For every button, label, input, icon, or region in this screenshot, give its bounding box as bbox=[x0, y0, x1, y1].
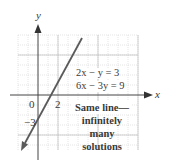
equation-2: 6x − 3y = 9 bbox=[76, 81, 125, 92]
equation-1: 2x − y = 3 bbox=[76, 68, 119, 79]
note-line-2: infinitely bbox=[72, 114, 132, 127]
same-line-note: Same line— infinitely many solutions bbox=[72, 101, 132, 153]
x-axis-arrow-icon bbox=[144, 92, 153, 99]
note-line-3: many bbox=[72, 127, 132, 140]
y-axis-arrow-icon bbox=[35, 24, 42, 33]
note-line-1: Same line— bbox=[72, 101, 132, 114]
note-line-4: solutions bbox=[72, 140, 132, 153]
y-axis bbox=[35, 24, 42, 160]
x-axis-label: x bbox=[155, 89, 160, 100]
y-axis-label: y bbox=[36, 10, 41, 21]
x-tick-2: 2 bbox=[55, 99, 61, 110]
y-tick-neg3: −3 bbox=[24, 117, 36, 128]
origin-label: 0 bbox=[29, 99, 35, 110]
graph-figure: y x 0 2 −3 2x − y = 3 6x − 3y = 9 Same l… bbox=[0, 0, 169, 168]
line-arrow-icon bbox=[21, 141, 28, 151]
